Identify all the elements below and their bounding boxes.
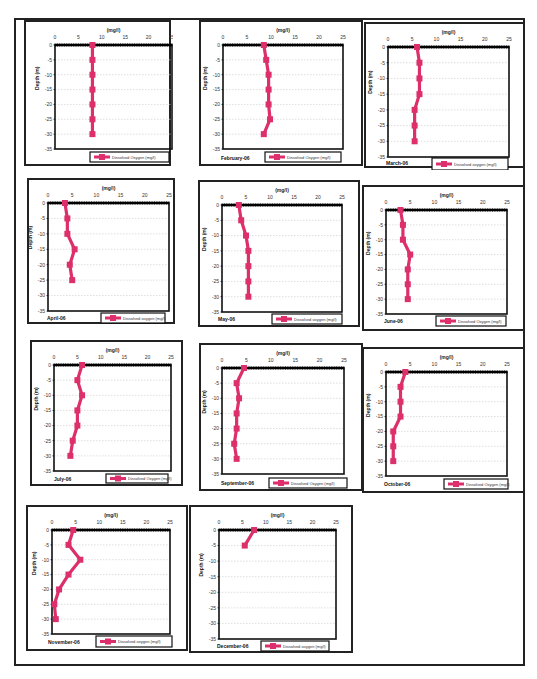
y-tick-label: -35 xyxy=(376,311,383,317)
y-axis-label: Depth (m) xyxy=(365,231,371,255)
legend: Dissolved Oxygen (mg/l) xyxy=(444,479,510,489)
y-tick-label: -15 xyxy=(378,91,385,97)
y-tick-label: -20 xyxy=(212,263,219,269)
x-tick-label: 10 xyxy=(263,519,269,525)
y-tick-label: -20 xyxy=(42,586,49,592)
x-tick-label: 25 xyxy=(333,519,339,525)
y-tick-label: -20 xyxy=(38,262,45,268)
legend: Dissolved oxygen (mg/l) xyxy=(261,641,329,651)
x-tick-label: 15 xyxy=(118,192,124,198)
data-point-marker xyxy=(56,586,62,592)
data-point-marker xyxy=(67,453,73,459)
y-tick-label: -20 xyxy=(376,428,383,434)
x-tick-label: 5 xyxy=(74,519,77,525)
x-axis-unit: (mg/l) xyxy=(275,187,289,193)
x-axis-unit: (mg/l) xyxy=(271,512,285,518)
month-label: March-06 xyxy=(386,160,408,166)
chart-svg: 0510152025(mg/l)0-5-10-15-20-25-30-35Dep… xyxy=(32,342,185,488)
data-point-marker xyxy=(267,116,273,122)
chart-panel-september-06: 0510152025(mg/l)0-5-10-15-20-25-30-35Dep… xyxy=(199,343,363,491)
chart-panel-may-06: 0510152025(mg/l)0-5-10-15-20-25-30-35Dep… xyxy=(198,180,360,327)
y-tick-label: -15 xyxy=(44,407,51,413)
data-point-marker xyxy=(398,414,404,420)
y-tick-label: -15 xyxy=(376,251,383,257)
month-label: September-06 xyxy=(221,480,254,486)
y-tick-label: -5 xyxy=(215,380,220,386)
y-tick-label: -30 xyxy=(376,296,383,302)
y-tick-label: 0 xyxy=(217,42,220,48)
y-tick-label: -5 xyxy=(48,57,53,63)
y-tick-label: -25 xyxy=(376,281,383,287)
data-point-marker xyxy=(412,107,418,113)
legend-swatch-marker xyxy=(274,154,280,160)
legend-label: Dissolved Oxygen (mg/l) xyxy=(112,155,156,160)
x-axis-unit: (mg/l) xyxy=(440,192,454,198)
data-point-marker xyxy=(236,202,242,208)
data-point-marker xyxy=(64,215,70,221)
y-tick-label: -25 xyxy=(212,441,219,447)
month-label: May-06 xyxy=(218,316,235,322)
x-axis-unit: (mg/l) xyxy=(106,347,120,353)
legend-label: Dissolved oxygen (mg/l) xyxy=(283,644,326,649)
data-point-marker xyxy=(51,601,57,607)
month-label: December-06 xyxy=(217,643,249,649)
x-tick-label: 25 xyxy=(340,34,346,40)
y-tick-label: -10 xyxy=(44,392,51,398)
x-axis-unit: (mg/l) xyxy=(102,185,116,191)
y-tick-label: -30 xyxy=(44,453,51,459)
y-tick-label: -5 xyxy=(216,57,221,63)
data-point-marker xyxy=(405,266,411,272)
x-tick-label: 0 xyxy=(51,519,54,525)
legend: Dissolved Oxygen (mg/l) xyxy=(265,152,341,162)
y-tick-label: -35 xyxy=(212,309,219,315)
x-tick-label: 5 xyxy=(71,192,74,198)
data-point-marker xyxy=(238,217,244,223)
data-point-marker xyxy=(416,75,422,81)
x-tick-label: 10 xyxy=(98,354,104,360)
data-point-marker xyxy=(236,395,242,401)
x-tick-label: 10 xyxy=(94,192,100,198)
x-tick-label: 25 xyxy=(504,361,510,367)
data-point-marker xyxy=(66,572,72,578)
do-profile-line xyxy=(65,203,75,280)
legend: Dissolved Oxygen (mg/l) xyxy=(269,478,347,488)
data-point-marker xyxy=(400,222,406,228)
chart-svg: 0510152025(mg/l)0-5-10-15-20-25-30-35Dep… xyxy=(29,180,177,326)
y-tick-label: -20 xyxy=(44,422,51,428)
x-tick-label: 20 xyxy=(146,34,152,40)
legend-swatch-marker xyxy=(270,643,276,649)
y-tick-label: 0 xyxy=(48,362,51,368)
y-tick-label: -15 xyxy=(42,571,49,577)
data-point-marker xyxy=(67,262,73,268)
data-point-marker xyxy=(405,296,411,302)
x-axis-unit: (mg/l) xyxy=(442,29,456,35)
data-point-marker xyxy=(405,281,411,287)
chart-panel-february-06: 0510152025(mg/l)0-5-10-15-20-25-30-35Dep… xyxy=(199,20,363,166)
data-point-marker xyxy=(266,72,272,78)
data-point-marker xyxy=(234,410,240,416)
data-point-marker xyxy=(62,200,68,206)
chart-panel-october-06: 0510152025(mg/l)0-5-10-15-20-25-30-35Dep… xyxy=(362,347,525,493)
data-point-marker xyxy=(70,438,76,444)
data-point-marker xyxy=(243,233,249,239)
legend-swatch-marker xyxy=(99,154,105,160)
y-tick-label: 0 xyxy=(216,202,219,208)
data-point-marker xyxy=(261,131,267,137)
month-label: October-06 xyxy=(384,481,411,487)
data-point-marker xyxy=(77,557,83,563)
legend: Dissolved oxygen (mg/l) xyxy=(101,313,166,323)
data-point-marker xyxy=(72,246,78,252)
x-tick-label: 10 xyxy=(99,34,105,40)
data-point-marker xyxy=(416,60,422,66)
x-tick-label: 15 xyxy=(122,34,128,40)
data-point-marker xyxy=(414,44,420,50)
y-tick-label: -5 xyxy=(215,217,220,223)
x-tick-label: 0 xyxy=(54,34,57,40)
x-tick-label: 15 xyxy=(286,519,292,525)
chart-panel-1: 0510152025(mg/l)0-5-10-15-20-25-30-35Dep… xyxy=(24,20,171,166)
legend: Dissolved oxygen (mg/l) xyxy=(272,314,342,324)
data-point-marker xyxy=(398,399,404,405)
data-point-marker xyxy=(89,42,95,48)
y-tick-label: -5 xyxy=(47,377,52,383)
data-point-marker xyxy=(416,91,422,97)
